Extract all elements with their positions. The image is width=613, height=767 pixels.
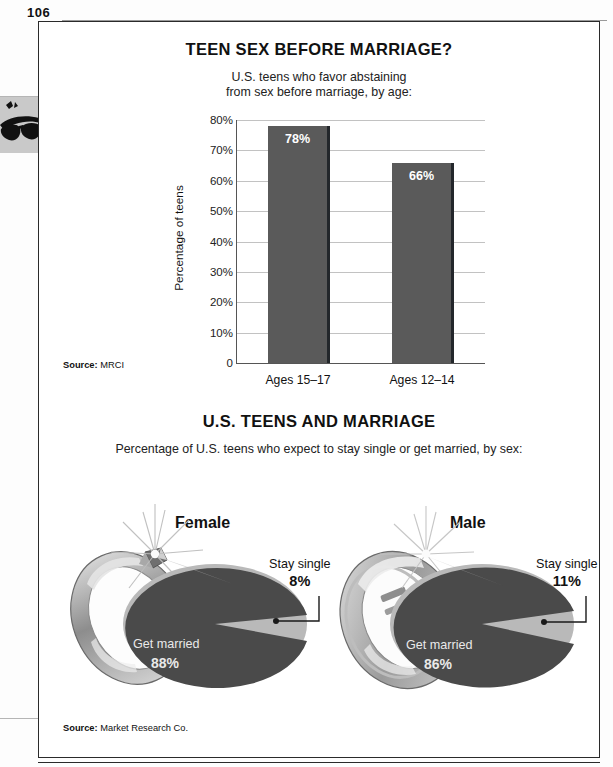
bar-value-label: 78% [268, 132, 327, 146]
y-axis-tick-label: 60% [210, 175, 233, 187]
female-get-married-label-group: Get married 88% [133, 634, 200, 671]
y-axis-tick-label: 0 [227, 357, 233, 369]
y-axis-tick-label: 50% [210, 205, 233, 217]
chart1-source-label: Source: [63, 360, 98, 370]
y-axis-tick-label: 70% [210, 144, 233, 156]
chart1-subtitle-line1: U.S. teens who favor abstaining [39, 70, 599, 85]
category-label: Ages 12–14 [362, 373, 482, 387]
margin-rule-bottom [0, 718, 38, 719]
male-stay-single-callout: Stay single 11% [536, 557, 598, 589]
bar: 78% [268, 126, 330, 363]
page-canvas: 106 TEEN SEX BEFORE MARRIAGE? U.S. teens… [0, 0, 613, 767]
chart1-title: TEEN SEX BEFORE MARRIAGE? [39, 40, 599, 59]
category-label: Ages 15–17 [238, 373, 358, 387]
male-ring-pie-graphic [322, 492, 592, 707]
chart2-source-value: Market Research Co. [100, 723, 188, 733]
chart1-subtitle: U.S. teens who favor abstaining from sex… [39, 70, 599, 99]
male-get-married-label: Get married [406, 638, 473, 652]
bar: 66% [392, 163, 454, 363]
bar-chart-plot-area: 010%20%30%40%50%60%70%80%78%66% [236, 120, 485, 364]
chart2-source-label: Source: [63, 723, 98, 733]
male-marriage-panel: Male [322, 492, 592, 707]
male-get-married-pct: 86% [424, 656, 473, 672]
male-stay-single-pct: 11% [536, 573, 598, 589]
gridline [237, 120, 485, 121]
y-axis-tick-label: 30% [210, 266, 233, 278]
chart1-source-value: MRCI [100, 360, 124, 370]
bar-chart: Percentage of teens 010%20%30%40%50%60%7… [191, 110, 501, 395]
y-axis-tick-label: 20% [210, 296, 233, 308]
female-ring-pie-graphic [57, 492, 327, 707]
chart2-source: Source: Market Research Co. [63, 723, 188, 733]
y-axis-tick-label: 40% [210, 236, 233, 248]
bar-value-label: 66% [392, 169, 451, 183]
male-stay-single-label: Stay single [536, 557, 598, 571]
chart1-source: Source: MRCI [63, 360, 124, 370]
female-marriage-panel: Female [57, 492, 327, 707]
chart1-subtitle-line2: from sex before marriage, by age: [39, 85, 599, 100]
chart2-title: U.S. TEENS AND MARRIAGE [39, 412, 599, 431]
y-axis-label: Percentage of teens [172, 185, 186, 291]
y-axis-tick-label: 10% [210, 327, 233, 339]
content-frame: TEEN SEX BEFORE MARRIAGE? U.S. teens who… [38, 21, 600, 758]
female-get-married-pct: 88% [151, 655, 200, 671]
chart2-subtitle: Percentage of U.S. teens who expect to s… [39, 442, 599, 457]
female-get-married-label: Get married [133, 637, 200, 651]
male-get-married-label-group: Get married 86% [406, 635, 473, 672]
footer-rule [38, 762, 600, 763]
y-axis-tick-label: 80% [210, 114, 233, 126]
page-number: 106 [27, 5, 50, 20]
